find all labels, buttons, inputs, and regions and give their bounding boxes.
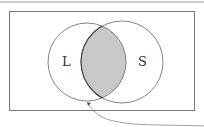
pointer-arrow — [89, 104, 204, 126]
set-S-label: S — [138, 54, 147, 69]
venn-diagram: L S — [0, 0, 204, 127]
arrow-head-icon — [87, 102, 91, 106]
set-L-label: L — [62, 54, 71, 69]
